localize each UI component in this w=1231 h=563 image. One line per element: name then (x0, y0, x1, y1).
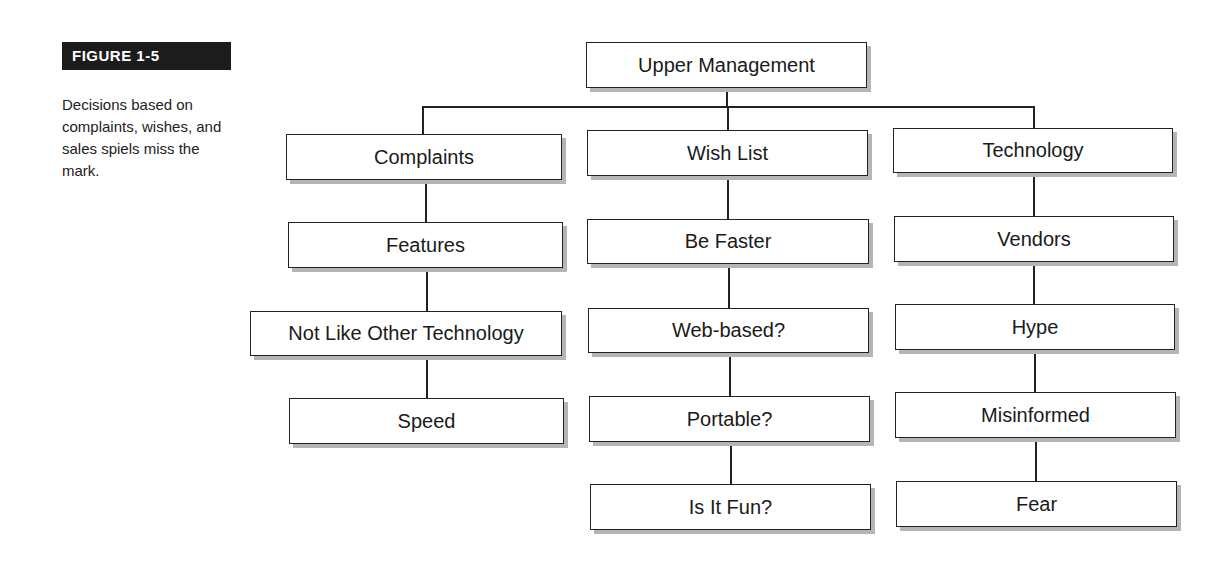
connector-drop-complaints (422, 106, 424, 134)
connector-c2-3 (729, 353, 731, 396)
node-wish-list: Wish List (587, 130, 868, 176)
node-speed: Speed (289, 398, 564, 444)
connector-drop-wishlist (727, 106, 729, 130)
node-hype: Hype (895, 304, 1175, 350)
node-fear: Fear (896, 481, 1177, 527)
connector-c1-2 (426, 268, 428, 311)
connector-c3-3 (1034, 350, 1036, 392)
connector-c3-2 (1033, 262, 1035, 304)
node-portable: Portable? (589, 396, 870, 442)
connector-c3-1 (1033, 173, 1035, 216)
figure-caption: Decisions based on complaints, wishes, a… (62, 94, 222, 182)
node-complaints: Complaints (286, 134, 562, 180)
connector-c2-1 (727, 176, 729, 219)
figure-label: FIGURE 1-5 (62, 42, 231, 70)
connector-root-down (726, 88, 728, 107)
connector-c3-4 (1035, 438, 1037, 481)
node-vendors: Vendors (894, 216, 1174, 262)
connector-c1-3 (426, 356, 428, 398)
connector-c1-1 (425, 180, 427, 222)
connector-c2-4 (730, 442, 732, 484)
node-technology: Technology (893, 128, 1173, 173)
node-misinformed: Misinformed (895, 392, 1176, 438)
node-not-like-other-technology: Not Like Other Technology (250, 311, 562, 356)
node-upper-management: Upper Management (586, 42, 867, 88)
node-be-faster: Be Faster (587, 219, 869, 264)
node-web-based: Web-based? (588, 308, 869, 353)
connector-drop-technology (1033, 106, 1035, 128)
node-is-it-fun: Is It Fun? (590, 484, 871, 530)
connector-c2-2 (728, 264, 730, 308)
node-features: Features (288, 222, 563, 268)
